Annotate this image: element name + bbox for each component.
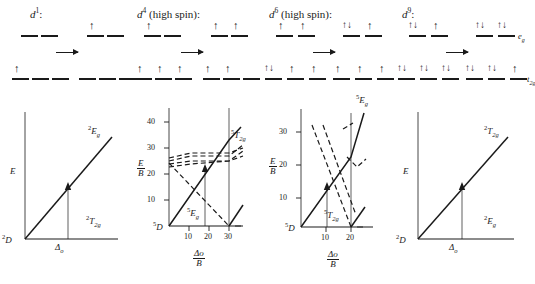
y-tick-10: 10 [279, 193, 287, 202]
upper-state-label: 5Eg [356, 93, 368, 107]
orbital-set-label-t2g: t2g [527, 74, 535, 86]
orbital-level-eg-1 [409, 35, 426, 37]
orbital-level-t2g-1 [79, 78, 96, 80]
y-tick-20: 20 [147, 169, 155, 178]
electron-spin-up: ↑ [367, 20, 373, 31]
electron-spin-up: ↑ [157, 63, 163, 74]
plot-d1: E 2D 2Eg 2T2g Δo [0, 104, 133, 264]
orbital-level-t2g-3 [309, 78, 326, 80]
lower-state-label: 2T2g [86, 214, 101, 228]
y-tick-40: 40 [147, 117, 155, 126]
y-axis-label: E [403, 166, 409, 176]
electron-spin-up: ↑ [357, 63, 363, 74]
panel-d1: d1: ↑ ↑ E 2D 2Eg 2T2g Δo [0, 0, 133, 284]
y-tick-10: 10 [147, 195, 155, 204]
lower-state-label: 5Eg [187, 206, 199, 220]
ground-term-label: 5D [285, 221, 295, 233]
orbital-level-t2g-2 [99, 78, 116, 80]
transition-arrow-icon [181, 52, 203, 53]
electron-spin-up: ↑ [213, 20, 219, 31]
electron-spin-pair: ↑↓ [441, 63, 451, 73]
orbital-level-eg-2 [41, 35, 58, 37]
ground-term-label: 5D [153, 220, 163, 232]
electron-spin-up: ↑ [379, 63, 385, 74]
y-tick-20: 20 [279, 160, 287, 169]
orbital-level-eg-1 [144, 35, 161, 37]
lower-state-label: 5T2g [324, 208, 339, 222]
electron-spin-pair: ↑↓ [497, 20, 507, 30]
y-axis-label: EB [137, 159, 145, 179]
x-tick-10: 10 [184, 232, 192, 241]
electron-spin-up: ↑ [14, 63, 20, 74]
orbital-level-eg-2 [431, 35, 448, 37]
electron-spin-up: ↑ [233, 20, 239, 31]
electron-spin-pair: ↑↓ [264, 63, 274, 73]
x-axis-label: ΔoB [193, 249, 205, 269]
lower-state-label: 2Eg [484, 214, 496, 228]
panel-d9: d9: ↑↓ ↑ ↑↓ ↑↓ ↑↓ ↑↓ ↑↓ eg ↑↓ ↑↓ ↑ t2g [396, 0, 529, 284]
y-axis-label: EB [269, 157, 277, 177]
electron-spin-pair: ↑↓ [475, 20, 485, 30]
delta-o-label: Δo [449, 242, 458, 254]
electron-spin-up: ↑ [289, 63, 295, 74]
orbital-level-t2g-3 [243, 78, 260, 80]
electron-spin-pair: ↑↓ [465, 63, 475, 73]
orbital-level-eg-2 [164, 35, 181, 37]
panel-title-d4: d4 (high spin): [137, 6, 200, 20]
electron-spin-up: ↑ [300, 20, 306, 31]
orbital-level-t2g-2 [287, 78, 304, 80]
orbital-level-eg-2 [231, 35, 248, 37]
upper-state-label: 5T2g [231, 128, 246, 142]
plot-d6: EB ΔoB 10 20 30 10 20 5D 5Eg 5T2g [263, 95, 396, 280]
panel-title-d1: d1: [30, 6, 42, 20]
orbital-level-t2g-3 [175, 78, 192, 80]
transition-arrow-icon [446, 52, 468, 53]
orbital-level-t2g-3 [377, 78, 394, 80]
orbital-level-t2g-2 [32, 78, 49, 80]
y-tick-30: 30 [147, 143, 155, 152]
orbital-level-t2g-1 [333, 78, 350, 80]
orbital-level-t2g-1 [12, 78, 29, 80]
orbital-level-eg-2 [365, 35, 382, 37]
orbital-level-t2g-2 [155, 78, 172, 80]
orbital-level-t2g-3 [442, 78, 459, 80]
orbital-level-eg-2 [107, 35, 124, 37]
ground-term-label: 2D [396, 233, 406, 245]
orbital-level-t2g-1 [398, 78, 415, 80]
electron-spin-up: ↑ [311, 63, 317, 74]
panel-title-d9: d9: [402, 6, 414, 20]
orbital-level-eg-1 [476, 35, 493, 37]
electron-spin-pair: ↑↓ [487, 63, 497, 73]
transition-arrow-icon [313, 52, 335, 53]
electron-spin-up: ↑ [512, 63, 518, 74]
electron-spin-up: ↑ [278, 20, 284, 31]
transition-arrow-icon [56, 52, 78, 53]
y-tick-30: 30 [279, 127, 287, 136]
electron-spin-pair: ↑↓ [419, 63, 429, 73]
orbital-set-label-eg: eg [518, 31, 525, 43]
x-tick-30: 30 [224, 232, 232, 241]
plot-d4: EB ΔoB 10 20 30 40 10 20 30 5D 5T2g 5Eg [131, 104, 264, 279]
x-tick-10: 10 [321, 233, 329, 242]
orbital-level-t2g-3 [52, 78, 69, 80]
orbital-level-eg-2 [498, 35, 515, 37]
x-axis-label: ΔoB [327, 250, 339, 270]
orbital-level-t2g-2 [355, 78, 372, 80]
electron-spin-up: ↑ [89, 20, 95, 31]
electron-spin-pair: ↑↓ [408, 20, 418, 30]
orbital-level-eg-1 [21, 35, 38, 37]
plot-d9: E 2D 2T2g 2Eg Δo [396, 104, 535, 264]
orbital-level-t2g-1 [466, 78, 483, 80]
panel-d4: d4 (high spin): ↑ ↑ ↑ ↑ ↑ ↑ ↑ ↑ [131, 0, 264, 284]
ground-term-label: 2D [2, 233, 12, 245]
orbital-level-eg-1 [211, 35, 228, 37]
x-tick-20: 20 [204, 232, 212, 241]
electron-spin-up: ↑ [146, 20, 152, 31]
upper-state-label: 2Eg [88, 124, 100, 138]
orbital-level-t2g-3 [510, 78, 527, 80]
orbital-level-t2g-1 [203, 78, 220, 80]
orbital-level-t2g-1 [265, 78, 282, 80]
orbital-level-t2g-2 [223, 78, 240, 80]
orbital-level-eg-2 [298, 35, 315, 37]
orbital-level-t2g-2 [488, 78, 505, 80]
